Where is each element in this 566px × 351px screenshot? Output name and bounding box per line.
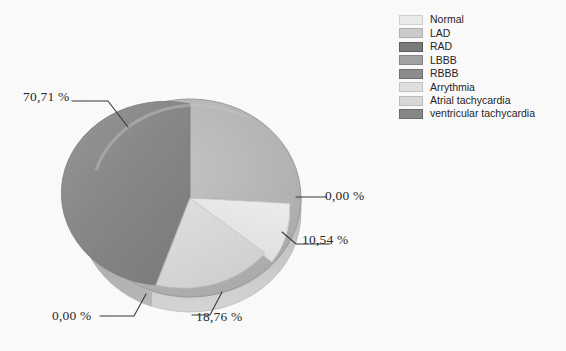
legend-item: ventricular tachycardia bbox=[399, 107, 566, 120]
legend-swatch-icon bbox=[399, 69, 423, 79]
legend-item: Arrythmia bbox=[399, 80, 566, 93]
chart-plot-area: 70,71 % 0,00 % 10,54 % 0,00 % 18,76 % bbox=[0, 0, 390, 351]
legend-swatch-icon bbox=[399, 15, 423, 25]
legend-item: LBBB bbox=[399, 53, 566, 66]
legend-item-label: Normal bbox=[430, 14, 464, 25]
legend-item-label: RAD bbox=[430, 41, 452, 52]
legend-swatch-icon bbox=[399, 96, 423, 106]
legend-item-label: LAD bbox=[430, 28, 450, 39]
data-label-lbbb: 0,00 % bbox=[52, 308, 91, 324]
data-label-rad: 10,54 % bbox=[302, 232, 348, 248]
legend-swatch-icon bbox=[399, 28, 423, 38]
pie-chart-graphic bbox=[0, 0, 390, 351]
legend-item: RBBB bbox=[399, 67, 566, 80]
data-label-rbbb: 18,76 % bbox=[196, 309, 242, 325]
legend-swatch-icon bbox=[399, 109, 423, 119]
legend-item-label: RBBB bbox=[430, 68, 459, 79]
legend-item-label: Arrythmia bbox=[430, 82, 475, 93]
legend-item: Normal bbox=[399, 13, 566, 26]
legend-swatch-icon bbox=[399, 42, 423, 52]
chart-legend: NormalLADRADLBBBRBBBArrythmiaAtrial tach… bbox=[399, 13, 566, 121]
data-label-lad: 0,00 % bbox=[325, 188, 364, 204]
legend-item: RAD bbox=[399, 40, 566, 53]
legend-swatch-icon bbox=[399, 55, 423, 65]
legend-item-label: ventricular tachycardia bbox=[430, 108, 535, 119]
legend-item: LAD bbox=[399, 26, 566, 39]
data-label-normal: 70,71 % bbox=[23, 89, 69, 105]
pie-chart-figure: 70,71 % 0,00 % 10,54 % 0,00 % 18,76 % No… bbox=[0, 0, 566, 351]
legend-item-label: Atrial tachycardia bbox=[430, 95, 511, 106]
legend-item-label: LBBB bbox=[430, 55, 457, 66]
legend-item: Atrial tachycardia bbox=[399, 94, 566, 107]
legend-swatch-icon bbox=[399, 82, 423, 92]
